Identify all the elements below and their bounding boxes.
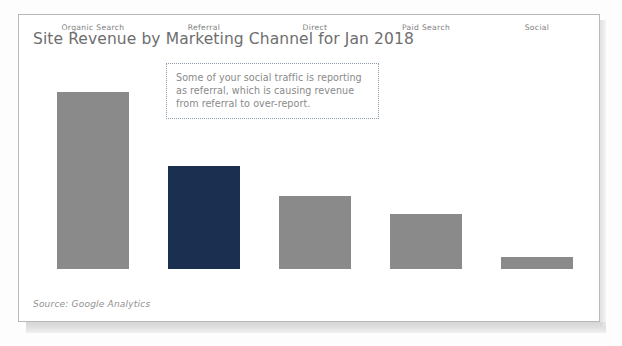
annotation-text: Some of your social traffic is reporting…	[176, 71, 369, 111]
annotation-callout: Some of your social traffic is reporting…	[166, 63, 379, 119]
source-note: Source: Google Analytics	[33, 299, 150, 309]
bar-label-social: Social	[487, 23, 587, 32]
bar-chart-plot-area: Organic SearchReferralDirectPaid SearchS…	[19, 15, 599, 321]
bar-referral[interactable]	[168, 166, 240, 269]
figure-drop-shadow-right	[600, 20, 606, 326]
bar-paid-search[interactable]	[390, 214, 462, 269]
bar-organic-search[interactable]	[57, 92, 129, 269]
chart-frame: Site Revenue by Marketing Channel for Ja…	[18, 14, 600, 322]
bar-direct[interactable]	[279, 196, 351, 269]
bar-group: Direct	[279, 15, 351, 269]
bar-label-referral: Referral	[154, 23, 254, 32]
bar-group: Social	[501, 15, 573, 269]
bar-social[interactable]	[501, 257, 573, 269]
bar-group: Paid Search	[390, 15, 462, 269]
bar-label-paid-search: Paid Search	[376, 23, 476, 32]
bar-label-organic-search: Organic Search	[43, 23, 143, 32]
bar-group: Referral	[168, 15, 240, 269]
bar-group: Organic Search	[57, 15, 129, 269]
figure-drop-shadow	[26, 322, 606, 333]
bar-label-direct: Direct	[265, 23, 365, 32]
